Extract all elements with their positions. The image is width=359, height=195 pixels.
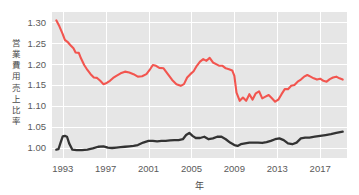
y-axis-title: 営業費用売上比率 (12, 38, 21, 126)
y-axis-title-char-0: 営 (12, 38, 21, 48)
x-tick-label-2009: 2009 (224, 163, 245, 174)
y-tick-label-1.10: 1.10 (28, 100, 47, 111)
chart-container: 1.001.051.101.151.201.251.30 19931997200… (0, 0, 359, 195)
y-axis-title-char-6: 比 (12, 105, 21, 115)
y-tick-label-1.15: 1.15 (28, 79, 47, 90)
x-tick-label-2005: 2005 (181, 163, 202, 174)
x-tick-label-1993: 1993 (52, 163, 73, 174)
y-tick-label-1.30: 1.30 (28, 17, 47, 28)
y-axis-title-char-1: 業 (12, 49, 21, 59)
x-tick-label-2017: 2017 (310, 163, 331, 174)
x-tick-label-2013: 2013 (267, 163, 288, 174)
line-chart: 1.001.051.101.151.201.251.30 19931997200… (0, 0, 359, 195)
y-tick-label-1.00: 1.00 (28, 142, 47, 153)
y-axis-title-char-4: 売 (12, 83, 21, 93)
x-tick-label-1997: 1997 (95, 163, 116, 174)
x-axis-title-label: 年 (195, 180, 204, 191)
y-tick-label-1.20: 1.20 (28, 59, 47, 70)
x-tick-label-2001: 2001 (138, 163, 159, 174)
y-axis-title-char-5: 上 (12, 94, 21, 104)
y-axis-title-char-7: 率 (12, 116, 21, 126)
y-axis-title-char-3: 用 (12, 71, 21, 81)
y-tick-label-1.05: 1.05 (28, 121, 47, 132)
y-axis-title-char-2: 費 (12, 60, 21, 70)
y-tick-label-1.25: 1.25 (28, 38, 47, 49)
